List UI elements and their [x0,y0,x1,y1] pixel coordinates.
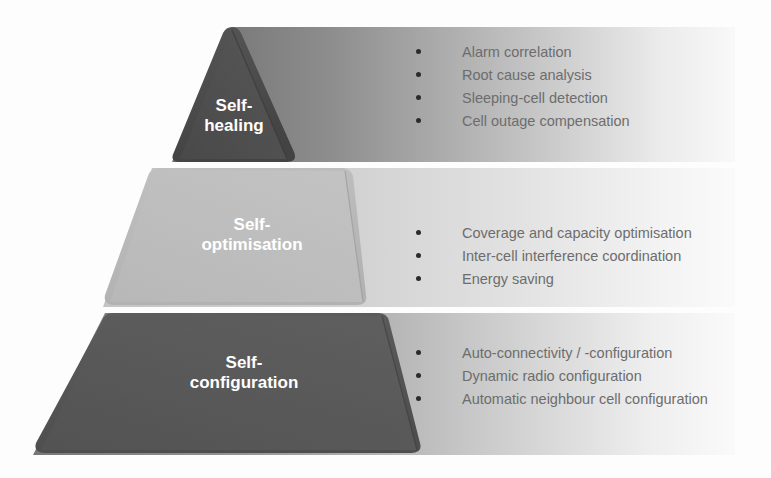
list-item-label: Coverage and capacity optimisation [462,222,692,245]
list-item-label: Energy saving [462,268,554,291]
list-item-label: Auto-connectivity / -configuration [462,342,672,365]
bullet-icon [416,49,421,54]
son-pyramid-diagram: Self- healing Self- optimisation Self- c… [0,0,771,478]
bullet-icon [416,396,421,401]
layer-self-healing[interactable] [150,20,750,170]
list-item-label: Inter-cell interference coordination [462,245,681,268]
list-item-label: Sleeping-cell detection [462,87,608,110]
list-item-label: Alarm correlation [462,41,572,64]
list-item-label: Dynamic radio configuration [462,365,642,388]
list-item-label: Automatic neighbour cell configuration [462,388,708,411]
bullet-icon [416,230,421,235]
bullet-icon [416,253,421,258]
bullet-icon [416,95,421,100]
bullet-icon [416,118,421,123]
bullet-icon [416,72,421,77]
bullet-icon [416,276,421,281]
bullet-icon [416,373,421,378]
list-item-label: Cell outage compensation [462,110,630,133]
bullet-icon [416,350,421,355]
list-item-label: Root cause analysis [462,64,592,87]
